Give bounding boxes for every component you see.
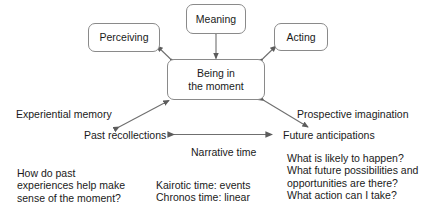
connector-past-center <box>119 101 169 128</box>
node-perceiving[interactable]: Perceiving <box>88 23 160 52</box>
node-meaning-label: Meaning <box>196 13 236 26</box>
node-meaning[interactable]: Meaning <box>186 4 246 34</box>
diagram-canvas: Perceiving Meaning Acting Being in the m… <box>0 0 434 216</box>
label-prospective-imagination: Prospective imagination <box>297 108 408 120</box>
text-block-past-questions: How do past experiences help make sense … <box>17 167 125 204</box>
connector-acting-center <box>263 46 276 59</box>
node-acting-label: Acting <box>286 31 315 44</box>
node-perceiving-label: Perceiving <box>99 31 148 44</box>
text-block-time-types: Kairotic time: events Chronos time: line… <box>156 179 251 204</box>
label-past-recollections: Past recollections <box>84 129 166 141</box>
label-narrative-time: Narrative time <box>191 146 256 158</box>
node-being-in-the-moment[interactable]: Being in the moment <box>167 59 265 100</box>
text-block-future-questions: What is likely to happen? What future po… <box>287 152 418 202</box>
label-experiential-memory: Experiential memory <box>16 108 112 120</box>
node-acting[interactable]: Acting <box>274 23 328 51</box>
node-being-in-the-moment-label: Being in the moment <box>188 67 243 92</box>
label-future-anticipations: Future anticipations <box>283 129 375 141</box>
